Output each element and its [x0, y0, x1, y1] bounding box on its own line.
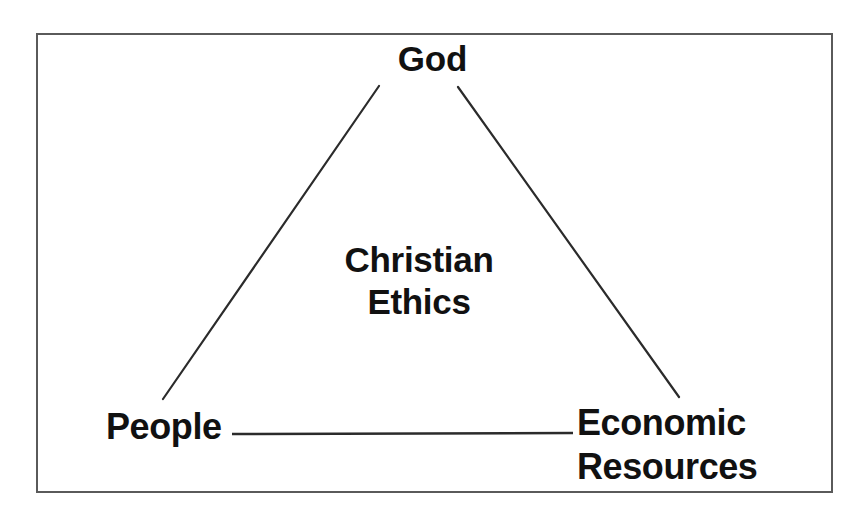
vertex-label-god: God	[0, 41, 865, 76]
vertex-label-economic-line-1: Economic	[577, 405, 758, 441]
center-label-line-2: Ethics	[0, 284, 838, 319]
vertex-label-economic-resources: Economic Resources	[577, 405, 758, 485]
vertex-label-economic-line-2: Resources	[577, 449, 758, 485]
center-label-line-1: Christian	[0, 242, 838, 277]
vertex-label-people: People	[106, 409, 222, 445]
center-label: Christian Ethics	[0, 242, 838, 319]
